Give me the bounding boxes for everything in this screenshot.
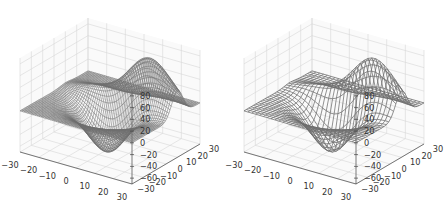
- y-tick-label: 30: [209, 144, 219, 154]
- z-tick-label: 40: [140, 114, 150, 124]
- z-tick-label: 80: [140, 91, 150, 101]
- y-tick-label: 10: [410, 157, 420, 167]
- y-tick-label: 0: [177, 164, 182, 174]
- x-tick-label: −20: [244, 165, 261, 175]
- x-tick-label: 20: [98, 187, 108, 197]
- z-tick-label: 80: [364, 91, 374, 101]
- x-tick-label: 0: [287, 176, 292, 186]
- wireframe-plot-left: −30−20−100102030−30−20−100102030−60−40−2…: [0, 0, 448, 218]
- y-tick-label: 30: [433, 144, 443, 154]
- x-tick-label: 30: [341, 192, 351, 202]
- x-tick-label: −10: [263, 171, 280, 181]
- z-tick-label: 60: [364, 103, 374, 113]
- x-tick-label: 0: [63, 176, 68, 186]
- figure: −30−20−100102030−30−20−100102030−60−40−2…: [0, 0, 448, 218]
- axes-left: −30−20−100102030−30−20−100102030−60−40−2…: [1, 18, 219, 202]
- x-tick-label: 20: [322, 187, 332, 197]
- x-tick-label: −20: [20, 165, 37, 175]
- y-tick-label: 0: [401, 164, 406, 174]
- x-tick-label: −30: [225, 160, 242, 170]
- axes-right: −30−20−100102030−30−20−100102030−60−40−2…: [225, 18, 443, 202]
- z-tick-label: 60: [140, 103, 150, 113]
- z-tick-label: 40: [364, 114, 374, 124]
- x-tick-label: −30: [1, 160, 18, 170]
- z-tick-label: 20: [140, 126, 150, 136]
- x-tick-label: 10: [303, 181, 313, 191]
- z-tick-label: −20: [140, 150, 157, 160]
- x-tick-label: 30: [117, 192, 127, 202]
- y-tick-label: −10: [384, 171, 401, 181]
- z-tick-label: 0: [140, 138, 145, 148]
- x-tick-label: 10: [79, 181, 89, 191]
- z-tick-label: −60: [140, 173, 157, 183]
- z-tick-label: 0: [364, 138, 369, 148]
- z-tick-label: −60: [364, 173, 381, 183]
- y-tick-label: 20: [421, 151, 431, 161]
- y-tick-label: 10: [186, 157, 196, 167]
- z-tick-label: 20: [364, 126, 374, 136]
- y-tick-label: 20: [197, 151, 207, 161]
- y-tick-label: −10: [160, 171, 177, 181]
- x-tick-label: −10: [39, 171, 56, 181]
- z-tick-label: −40: [364, 161, 381, 171]
- z-tick-label: −40: [140, 161, 157, 171]
- z-tick-label: −20: [364, 150, 381, 160]
